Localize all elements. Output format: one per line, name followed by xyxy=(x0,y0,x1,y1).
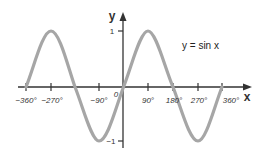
y-axis-arrow-icon xyxy=(120,12,127,21)
tick-label-m270: −270° xyxy=(41,96,63,105)
x-axis-label: x xyxy=(244,90,251,104)
tick-label-m360: −360° xyxy=(15,96,37,105)
equation-label: y = sin x xyxy=(182,40,219,51)
tick-label-p270: 270° xyxy=(190,96,208,105)
y-axis-label: y xyxy=(109,9,116,23)
origin-label: 0 xyxy=(114,90,119,99)
tick-label-p360: 360° xyxy=(223,96,240,105)
sine-chart: −360° −270° −90° 90° 180° 270° 360° 0 1 … xyxy=(0,0,265,158)
y-tick-label-1: 1 xyxy=(110,27,115,36)
y-tick-label-neg1: −1 xyxy=(106,137,116,146)
tick-label-p180: 180° xyxy=(166,96,183,105)
tick-label-p90: 90° xyxy=(142,96,155,105)
tick-label-m90: −90° xyxy=(91,96,109,105)
